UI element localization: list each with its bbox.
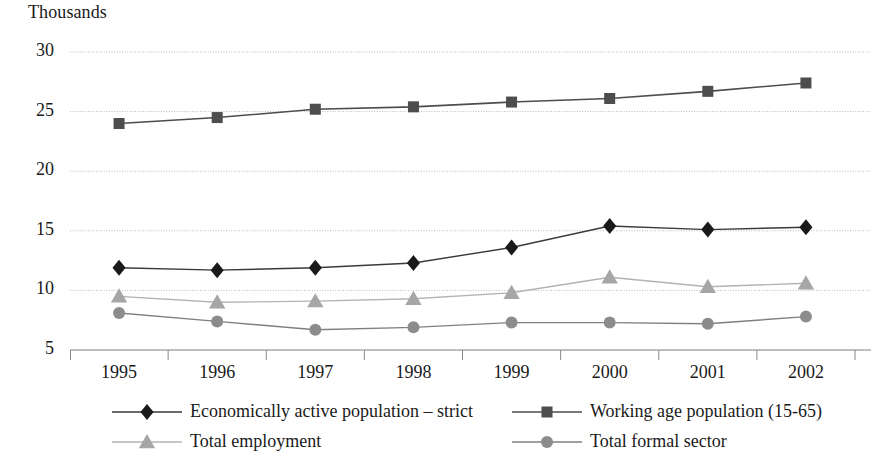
y-tick-label-20: 20 [12,159,54,180]
data-point-s4-1998 [407,321,419,333]
x-tick-label-1998: 1998 [368,362,458,383]
data-point-s1-2002 [799,219,812,235]
data-point-s2-2001 [702,86,713,97]
y-tick-label-25: 25 [12,100,54,121]
data-point-s1-1996 [211,262,224,278]
legend-entry-3[interactable]: Total employment [110,428,321,455]
data-point-s1-1999 [505,239,518,255]
series-markers [111,77,814,335]
data-point-s4-1999 [506,317,518,329]
data-point-s4-1997 [309,324,321,336]
legend-label-2: Working age population (15-65) [584,401,822,422]
y-tick-label-10: 10 [12,278,54,299]
data-point-s2-2002 [800,77,811,88]
legend-label-1: Economically active population – strict [184,401,473,422]
data-point-s3-1997 [307,293,323,307]
data-point-s1-1997 [309,260,322,276]
data-point-s4-1996 [211,315,223,327]
data-point-s2-1997 [310,104,321,115]
x-tick-label-1999: 1999 [467,362,557,383]
chart-figure: Thousands 30252015105 199519961997199819… [0,0,877,474]
data-point-s1-2000 [603,218,616,234]
data-point-s2-1996 [212,112,223,123]
data-point-s1-1995 [113,260,126,276]
gridlines [70,52,871,350]
data-point-s4-1995 [113,307,125,319]
series-line-1 [119,226,806,270]
x-tick-label-2000: 2000 [565,362,655,383]
x-tick-label-1995: 1995 [74,362,164,383]
legend-entry-1[interactable]: Economically active population – strict [110,398,473,425]
diamond-marker-icon [110,402,184,422]
x-axis-ticks [168,350,855,360]
data-point-s2-1995 [114,118,125,129]
chart-legend: Economically active population – strictW… [110,398,870,460]
legend-label-3: Total employment [184,431,321,452]
axis-lines [70,350,871,360]
legend-entry-2[interactable]: Working age population (15-65) [510,398,822,425]
data-point-s4-2000 [604,317,616,329]
data-point-s4-2002 [800,311,812,323]
legend-entry-4[interactable]: Total formal sector [510,428,727,455]
y-tick-label-15: 15 [12,219,54,240]
legend-label-4: Total formal sector [584,431,727,452]
data-point-s1-1998 [407,255,420,271]
circle-marker-icon [510,432,584,452]
triangle-marker-icon [110,432,184,452]
x-tick-label-1996: 1996 [172,362,262,383]
square-marker-icon [510,402,584,422]
y-tick-label-30: 30 [12,40,54,61]
data-point-s4-2001 [702,318,714,330]
x-tick-label-2001: 2001 [663,362,753,383]
data-point-s1-2001 [701,222,714,238]
data-point-s2-1999 [506,97,517,108]
x-tick-label-2002: 2002 [761,362,851,383]
data-point-s3-2000 [602,269,618,283]
data-point-s2-2000 [604,93,615,104]
data-point-s2-1998 [408,101,419,112]
y-tick-label-5: 5 [12,338,54,359]
data-point-s3-2002 [798,275,814,289]
x-tick-label-1997: 1997 [270,362,360,383]
